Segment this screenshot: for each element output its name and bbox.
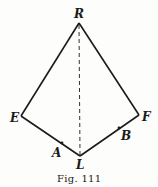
point-label-A: A xyxy=(51,146,61,160)
vertex-label-L: L xyxy=(75,158,84,172)
vertex-label-R: R xyxy=(73,7,84,21)
edge-R-L-dashed xyxy=(79,25,80,155)
point-B-marker xyxy=(118,127,121,130)
edge-R-F xyxy=(79,23,139,115)
vertex-label-E: E xyxy=(9,111,20,125)
edge-R-E xyxy=(21,23,79,116)
point-label-B: B xyxy=(120,129,131,143)
figure-caption: Fig. 111 xyxy=(57,173,101,184)
point-A-marker xyxy=(61,142,64,145)
figure-diagram: R E F L A B Fig. 111 xyxy=(0,0,158,187)
vertex-label-F: F xyxy=(141,110,152,124)
edge-E-L xyxy=(21,116,80,156)
